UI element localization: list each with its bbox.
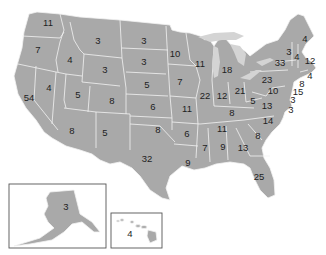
state-label-ma: 12 (305, 56, 316, 66)
state-label-wy: 3 (102, 65, 107, 75)
state-label-id: 4 (67, 55, 72, 65)
state-label-nm: 5 (102, 128, 107, 138)
state-label-sd: 3 (141, 57, 146, 67)
state-label-or: 7 (35, 45, 40, 55)
state-label-la: 9 (185, 158, 190, 168)
state-label-tn: 11 (217, 124, 227, 134)
state-label-wv: 5 (250, 96, 255, 106)
state-label-hi: 4 (127, 229, 132, 239)
state-label-nh: 4 (294, 52, 299, 62)
state-label-ar: 6 (184, 129, 189, 139)
state-label-vt: 3 (286, 47, 291, 57)
state-label-ia: 7 (177, 77, 182, 87)
state-label-dc: 3 (288, 105, 293, 115)
state-label-ri: 4 (307, 71, 312, 81)
state-label-co: 8 (109, 96, 114, 106)
state-label-al: 9 (220, 142, 225, 152)
state-label-mo: 11 (182, 104, 192, 114)
state-label-mn: 10 (170, 49, 181, 59)
state-label-sc: 8 (255, 131, 260, 141)
state-label-ga: 13 (238, 143, 249, 153)
state-label-nd: 3 (141, 36, 146, 46)
state-label-fl: 25 (254, 172, 265, 182)
state-label-me: 4 (302, 34, 307, 44)
state-label-nv: 4 (46, 83, 51, 93)
state-label-mi: 18 (222, 65, 233, 75)
state-label-oh: 21 (235, 86, 246, 96)
state-label-il: 22 (200, 91, 211, 101)
state-label-ne: 5 (144, 80, 149, 90)
state-label-ny: 33 (275, 58, 286, 68)
state-label-in: 12 (217, 91, 228, 101)
state-label-md: 10 (268, 86, 279, 96)
state-label-wa: 11 (43, 18, 53, 28)
state-label-ms: 7 (202, 143, 207, 153)
hawaii-inset-frame (111, 213, 162, 248)
state-label-nc: 14 (263, 116, 274, 126)
state-label-mt: 3 (95, 36, 100, 46)
state-label-az: 8 (69, 126, 74, 136)
state-label-wi: 11 (195, 59, 205, 69)
state-label-ok: 8 (155, 125, 160, 135)
state-label-ky: 8 (229, 108, 234, 118)
state-label-ak: 3 (63, 202, 68, 212)
state-label-ut: 5 (75, 90, 80, 100)
us-map (0, 0, 326, 255)
state-label-ca: 54 (24, 93, 35, 103)
state-label-va: 13 (262, 101, 273, 111)
state-label-pa: 23 (262, 75, 273, 85)
state-label-tx: 32 (142, 154, 153, 164)
state-label-ks: 6 (150, 102, 155, 112)
